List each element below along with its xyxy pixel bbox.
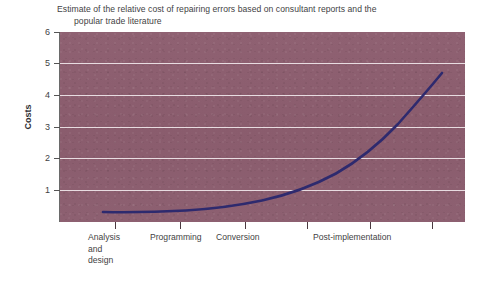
y-tick-label-4: 4 [34, 90, 50, 100]
chart-title: Estimate of the relative cost of repairi… [57, 3, 457, 27]
x-category-label-conversion: Conversion [216, 232, 286, 244]
y-tick-label-1: 1 [34, 185, 50, 195]
plot-area [60, 32, 465, 222]
chart-figure: Estimate of the relative cost of repairi… [0, 0, 502, 285]
x-tick-mark-5 [370, 222, 371, 229]
gridline-5 [60, 63, 465, 64]
x-category-label-post-implementation: Post-implementation [313, 232, 433, 244]
y-tick-label-5: 5 [34, 58, 50, 68]
y-axis-title: Costs [23, 87, 33, 147]
gridline-2 [60, 158, 465, 159]
gridline-1 [60, 190, 465, 191]
x-tick-mark-1 [115, 222, 116, 229]
y-tick-label-3: 3 [34, 122, 50, 132]
y-tick-label-6: 6 [34, 27, 50, 37]
gridline-4 [60, 95, 465, 96]
chart-title-line-1: Estimate of the relative cost of repairi… [57, 4, 377, 14]
gridline-3 [60, 127, 465, 128]
x-tick-mark-4 [307, 222, 308, 229]
x-category-label-analysis-and-design: Analysis and design [88, 232, 138, 267]
chart-title-line-2: popular trade literature [57, 15, 457, 27]
y-tick-label-2: 2 [34, 153, 50, 163]
x-tick-mark-3 [245, 222, 246, 229]
x-tick-mark-6 [432, 222, 433, 229]
x-tick-mark-2 [180, 222, 181, 229]
